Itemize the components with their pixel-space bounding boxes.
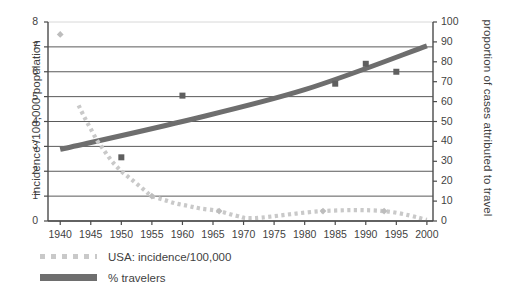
y-axis-left-tick-0: 0 [22,214,38,226]
dotted-line-swatch-icon [40,251,97,263]
y-axis-right-tick-20: 20 [441,174,463,186]
y-axis-right-tick-40: 40 [441,134,463,146]
x-axis-tick-1960: 1960 [165,228,199,240]
y-axis-right-tick-60: 60 [441,95,463,107]
x-axis-tick-1980: 1980 [288,228,322,240]
legend-item-incidence: USA: incidence/100,000 [40,246,340,267]
y-axis-left-tick-8: 8 [22,15,38,27]
x-axis-tick-1965: 1965 [196,228,230,240]
x-axis-tick-1955: 1955 [135,228,169,240]
y-axis-left-tick-5: 5 [22,90,38,102]
legend-label-travelers: % travelers [108,272,166,284]
y-axis-right-tick-100: 100 [441,15,463,27]
axis-tick-marks [44,22,437,225]
x-axis-tick-1945: 1945 [74,228,108,240]
y-axis-left-tick-3: 3 [22,139,38,151]
y-axis-right-tick-0: 0 [441,214,463,226]
y-axis-right-title: proportion of cases attributed to travel [482,15,494,221]
y-axis-left-tick-7: 7 [22,40,38,52]
y-axis-right-tick-10: 10 [441,194,463,206]
y-axis-right-tick-50: 50 [441,115,463,127]
y-axis-right-tick-30: 30 [441,154,463,166]
x-axis-tick-1975: 1975 [257,228,291,240]
gridlines [48,22,433,221]
y-axis-right-tick-90: 90 [441,35,463,47]
x-axis-tick-1990: 1990 [349,228,383,240]
solid-line-swatch-icon [40,274,97,281]
y-axis-left-tick-6: 6 [22,65,38,77]
legend-item-travelers: % travelers [40,267,340,288]
series-percent-travelers [60,46,427,160]
y-axis-left-tick-2: 2 [22,164,38,176]
y-axis-left-tick-1: 1 [22,189,38,201]
chart-legend: USA: incidence/100,000 % travelers [40,246,340,288]
legend-label-incidence: USA: incidence/100,000 [108,251,231,263]
series-usa-incidence [57,31,427,220]
x-axis-tick-1995: 1995 [379,228,413,240]
y-axis-left-tick-4: 4 [22,115,38,127]
y-axis-right-tick-80: 80 [441,55,463,67]
x-axis-tick-1950: 1950 [104,228,138,240]
x-axis-tick-1970: 1970 [227,228,261,240]
y-axis-right-tick-70: 70 [441,75,463,87]
x-axis-tick-1985: 1985 [318,228,352,240]
x-axis-tick-2000: 2000 [410,228,444,240]
x-axis-tick-1940: 1940 [43,228,77,240]
chart-figure: incidence /100,000 population proportion… [0,0,511,301]
